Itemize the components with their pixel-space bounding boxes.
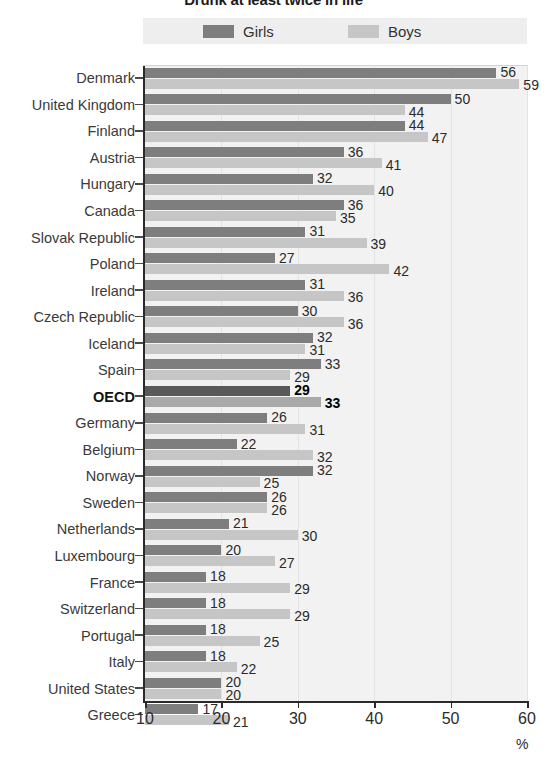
bar-girls [145, 121, 405, 131]
bar-boys [145, 317, 344, 327]
x-axis-tick [451, 701, 453, 708]
bar-value-girls: 44 [409, 118, 425, 132]
country-label-italy: Italy [0, 649, 135, 676]
bar-value-girls: 18 [210, 596, 226, 610]
x-axis-tick-label: 30 [289, 710, 307, 728]
bar-value-boys: 59 [523, 78, 539, 92]
bar-row: Italy1822 [0, 649, 547, 676]
bar-boys [145, 450, 313, 460]
bar-boys [145, 689, 221, 699]
country-label-oecd: OECD [0, 383, 135, 410]
bar-girls [145, 227, 305, 237]
x-axis-tick [374, 701, 376, 708]
bar-girls [145, 545, 221, 555]
bar-girls [145, 174, 313, 184]
x-axis-tick [145, 701, 147, 708]
country-label-united-states: United States [0, 675, 135, 702]
bar-value-girls: 22 [241, 437, 257, 451]
bar-value-girls: 31 [309, 277, 325, 291]
country-label-greece: Greece [0, 702, 135, 729]
bar-girls [145, 306, 298, 316]
y-axis-tick [135, 236, 143, 238]
bar-value-boys: 26 [271, 503, 287, 517]
legend-item-boys: Boys [348, 18, 421, 44]
bar-value-boys: 36 [348, 317, 364, 331]
bar-boys [145, 79, 519, 89]
bar-girls [145, 200, 344, 210]
country-label-portugal: Portugal [0, 622, 135, 649]
bar-girls [145, 492, 267, 502]
legend-item-girls: Girls [203, 18, 274, 44]
y-axis-tick [135, 608, 143, 610]
bar-row: Canada3635 [0, 198, 547, 225]
y-axis-tick [135, 316, 143, 318]
bar-girls [145, 651, 206, 661]
country-label-norway: Norway [0, 463, 135, 490]
country-label-spain: Spain [0, 357, 135, 384]
bar-row: Slovak Republic3139 [0, 224, 547, 251]
y-axis-tick [135, 687, 143, 689]
country-label-united-kingdom: United Kingdom [0, 92, 135, 119]
x-axis-tick [527, 701, 529, 708]
bar-girls [145, 466, 313, 476]
bar-value-boys: 41 [386, 158, 402, 172]
country-label-denmark: Denmark [0, 65, 135, 92]
bar-boys [145, 238, 367, 248]
bar-row: Iceland3231 [0, 330, 547, 357]
y-axis-tick [135, 210, 143, 212]
y-axis-tick [135, 555, 143, 557]
bar-girls [145, 253, 275, 263]
bar-row: United States2020 [0, 675, 547, 702]
bar-boys [145, 158, 382, 168]
legend-label-boys: Boys [388, 24, 421, 39]
bar-row: Spain3329 [0, 357, 547, 384]
x-axis-tick-label: 10 [136, 710, 154, 728]
bar-value-boys: 29 [294, 582, 310, 596]
bar-girls [145, 359, 321, 369]
y-axis-tick [135, 422, 143, 424]
bar-boys [145, 636, 260, 646]
bar-boys [145, 424, 305, 434]
bar-row: Poland2742 [0, 251, 547, 278]
bar-row: Switzerland1829 [0, 596, 547, 623]
bar-boys [145, 132, 428, 142]
x-axis-tick [298, 701, 300, 708]
bar-row: Norway3225 [0, 463, 547, 490]
bar-boys [145, 397, 321, 407]
bar-girls [145, 598, 206, 608]
bar-row: Belgium2232 [0, 437, 547, 464]
bar-boys [145, 370, 290, 380]
country-label-poland: Poland [0, 251, 135, 278]
bar-row: United Kingdom5044 [0, 92, 547, 119]
bar-value-girls: 56 [500, 65, 516, 79]
bar-value-boys: 39 [371, 237, 387, 251]
bar-value-girls: 26 [271, 410, 287, 424]
bar-girls [145, 68, 496, 78]
bar-value-girls: 18 [210, 569, 226, 583]
bar-value-girls: 30 [302, 304, 318, 318]
bar-value-girls: 33 [325, 357, 341, 371]
bar-girls [145, 413, 267, 423]
legend-swatch-boys-icon [348, 25, 379, 38]
country-label-iceland: Iceland [0, 330, 135, 357]
bar-value-girls: 29 [294, 383, 310, 397]
bar-boys [145, 503, 267, 513]
y-axis-tick [135, 130, 143, 132]
chart-container: Drunk at least twice in life Girls Boys … [0, 0, 547, 759]
bar-row: Luxembourg2027 [0, 543, 547, 570]
country-label-slovak-republic: Slovak Republic [0, 224, 135, 251]
bar-value-boys: 36 [348, 290, 364, 304]
x-axis-tick-label: 50 [442, 710, 460, 728]
bar-girls [145, 439, 237, 449]
bar-row: Czech Republic3036 [0, 304, 547, 331]
y-axis-tick [135, 342, 143, 344]
y-axis-tick [135, 661, 143, 663]
bar-boys [145, 583, 290, 593]
bar-boys [145, 556, 275, 566]
y-axis-tick [135, 157, 143, 159]
y-axis-tick [135, 502, 143, 504]
country-label-austria: Austria [0, 145, 135, 172]
country-label-luxembourg: Luxembourg [0, 543, 135, 570]
chart-title: Drunk at least twice in life [0, 0, 547, 8]
bar-girls [145, 678, 221, 688]
